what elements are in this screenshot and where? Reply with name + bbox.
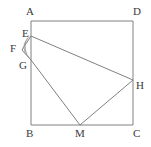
vertex-label-c: C	[133, 128, 140, 139]
vertex-label-b: B	[26, 128, 33, 139]
vertex-label-d: D	[133, 6, 141, 17]
vertex-label-a: A	[26, 6, 34, 17]
hatch-line	[22, 50, 30, 59]
vertex-label-e: E	[22, 28, 29, 39]
segment-mh	[80, 80, 133, 125]
vertex-label-h: H	[136, 80, 144, 91]
geometry-canvas	[0, 0, 151, 147]
vertex-label-g: G	[19, 60, 27, 71]
segment-gm	[31, 60, 80, 125]
geometry-figure: A D B C E F G H M	[0, 0, 151, 147]
vertex-label-m: M	[75, 128, 85, 139]
segment-eh	[31, 36, 133, 80]
vertex-label-f: F	[10, 43, 16, 54]
construction-lines	[22, 36, 133, 125]
